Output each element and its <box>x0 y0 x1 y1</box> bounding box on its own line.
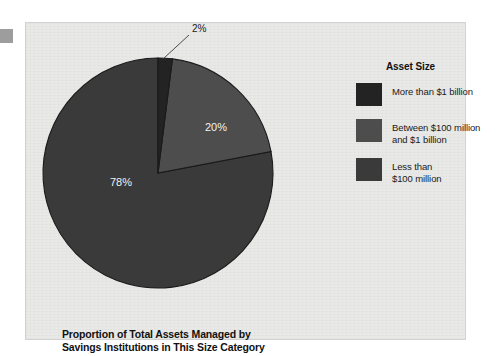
legend-label-line-1: Less than <box>392 161 442 173</box>
chart-panel: 2% 20% 78% Proportion of Total Assets Ma… <box>25 22 466 340</box>
slice-value-label-between-100-million-and-1-billion: 20% <box>205 121 227 133</box>
slice-value-label-less-than-100-million: 78% <box>110 176 132 188</box>
legend-label-line-1: Between $100 million <box>392 122 480 134</box>
legend-item-less-than-100-million[interactable]: Less than $100 million <box>356 158 486 184</box>
callout-leader-line <box>163 35 189 59</box>
legend-swatch-less-than-100-million <box>356 158 382 181</box>
legend-swatch-more-than-1-billion <box>356 83 382 106</box>
legend-label-less-than-100-million: Less than $100 million <box>392 158 442 184</box>
legend-item-more-than-1-billion[interactable]: More than $1 billion <box>356 83 486 106</box>
slice-value-label-more-than-1-billion: 2% <box>192 23 207 34</box>
scan-edge-artifact <box>0 29 13 43</box>
chart-title: Proportion of Total Assets Managed by Sa… <box>62 328 352 354</box>
legend-label-more-than-1-billion: More than $1 billion <box>392 83 473 98</box>
legend-label-between-100-million-and-1-billion: Between $100 million and $1 billion <box>392 119 480 145</box>
chart-title-line-2: Savings Institutions in This Size Catego… <box>62 341 352 354</box>
legend-label-line-1: More than $1 billion <box>392 86 473 98</box>
legend-label-line-2: $100 million <box>392 173 442 185</box>
legend: Asset Size More than $1 billion Between … <box>356 61 486 197</box>
chart-title-line-1: Proportion of Total Assets Managed by <box>62 328 352 341</box>
legend-title: Asset Size <box>386 61 486 72</box>
legend-label-line-2: and $1 billion <box>392 134 480 146</box>
legend-swatch-between-100-million-and-1-billion <box>356 119 382 142</box>
legend-item-between-100-million-and-1-billion[interactable]: Between $100 million and $1 billion <box>356 119 486 145</box>
